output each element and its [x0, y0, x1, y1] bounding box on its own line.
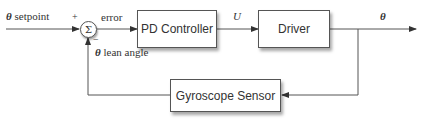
- output-theta-label: θ: [380, 10, 386, 22]
- gyroscope-sensor-block: Gyroscope Sensor: [170, 79, 281, 112]
- pd-controller-label: PD Controller: [141, 22, 213, 36]
- summing-junction: Σ: [80, 21, 97, 38]
- setpoint-label: θ setpoint: [6, 10, 49, 22]
- gyroscope-sensor-label: Gyroscope Sensor: [176, 89, 275, 103]
- driver-block: Driver: [258, 10, 330, 48]
- driver-label: Driver: [278, 22, 310, 36]
- sigma-symbol: Σ: [85, 24, 92, 35]
- error-label: error: [101, 11, 122, 23]
- plus-sign: +: [72, 11, 78, 22]
- pd-controller-block: PD Controller: [137, 10, 217, 48]
- control-signal-label: U: [233, 10, 241, 22]
